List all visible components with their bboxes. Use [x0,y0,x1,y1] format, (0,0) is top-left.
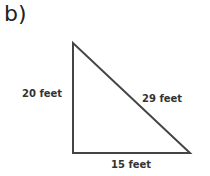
left-side-label: 20 feet [22,88,62,99]
bottom-side-label: 15 feet [111,159,151,170]
hypotenuse-label: 29 feet [142,93,182,104]
triangle-diagram: 20 feet 29 feet 15 feet [0,0,210,176]
